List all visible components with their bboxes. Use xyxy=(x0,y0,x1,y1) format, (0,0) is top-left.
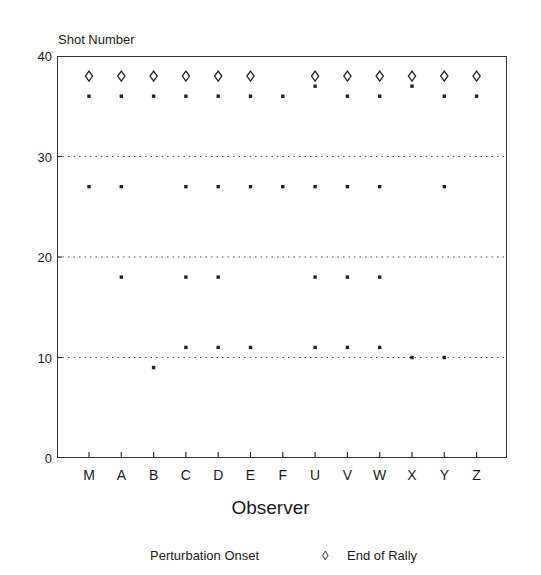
end-of-rally-marker xyxy=(312,71,319,81)
perturbation-onset-marker xyxy=(249,346,252,349)
legend-perturbation-onset: Perturbation Onset xyxy=(150,548,259,563)
end-of-rally-marker xyxy=(376,71,383,81)
perturbation-onset-marker xyxy=(184,95,187,98)
perturbation-onset-marker xyxy=(152,366,155,369)
perturbation-onset-marker xyxy=(378,275,381,278)
perturbation-onset-marker xyxy=(443,356,446,359)
legend-end-of-rally: End of Rally xyxy=(347,548,417,563)
perturbation-onset-marker xyxy=(217,275,220,278)
perturbation-onset-marker xyxy=(378,185,381,188)
perturbation-onset-marker xyxy=(120,95,123,98)
perturbation-onset-marker xyxy=(184,346,187,349)
x-axis-title: Observer xyxy=(0,497,541,519)
perturbation-onset-marker xyxy=(475,95,478,98)
end-of-rally-marker xyxy=(182,71,189,81)
perturbation-onset-marker xyxy=(313,185,316,188)
end-of-rally-marker xyxy=(473,71,480,81)
perturbation-onset-marker xyxy=(120,275,123,278)
end-of-rally-marker xyxy=(215,71,222,81)
perturbation-onset-marker xyxy=(346,346,349,349)
perturbation-onset-marker xyxy=(281,185,284,188)
perturbation-onset-marker xyxy=(313,84,316,87)
perturbation-onset-marker xyxy=(378,346,381,349)
perturbation-onset-marker xyxy=(120,185,123,188)
legend-end-of-rally-icon: ◊ xyxy=(322,548,328,563)
perturbation-onset-marker xyxy=(184,185,187,188)
perturbation-onset-marker xyxy=(217,346,220,349)
perturbation-onset-marker xyxy=(281,95,284,98)
perturbation-onset-marker xyxy=(443,185,446,188)
perturbation-onset-marker xyxy=(87,185,90,188)
perturbation-onset-marker xyxy=(313,346,316,349)
perturbation-onset-marker xyxy=(346,95,349,98)
perturbation-onset-marker xyxy=(87,95,90,98)
end-of-rally-marker xyxy=(441,71,448,81)
perturbation-onset-marker xyxy=(184,275,187,278)
perturbation-onset-marker xyxy=(443,95,446,98)
perturbation-onset-marker xyxy=(249,185,252,188)
perturbation-onset-marker xyxy=(217,95,220,98)
perturbation-onset-marker xyxy=(346,275,349,278)
chart-canvas xyxy=(0,0,541,575)
perturbation-onset-marker xyxy=(346,185,349,188)
end-of-rally-marker xyxy=(150,71,157,81)
perturbation-onset-marker xyxy=(217,185,220,188)
perturbation-onset-marker xyxy=(410,356,413,359)
perturbation-onset-marker xyxy=(378,95,381,98)
end-of-rally-marker xyxy=(118,71,125,81)
end-of-rally-marker xyxy=(247,71,254,81)
end-of-rally-marker xyxy=(408,71,415,81)
perturbation-onset-marker xyxy=(410,84,413,87)
perturbation-onset-marker xyxy=(313,275,316,278)
perturbation-onset-marker xyxy=(249,95,252,98)
end-of-rally-marker xyxy=(344,71,351,81)
end-of-rally-marker xyxy=(85,71,92,81)
perturbation-onset-marker xyxy=(152,95,155,98)
